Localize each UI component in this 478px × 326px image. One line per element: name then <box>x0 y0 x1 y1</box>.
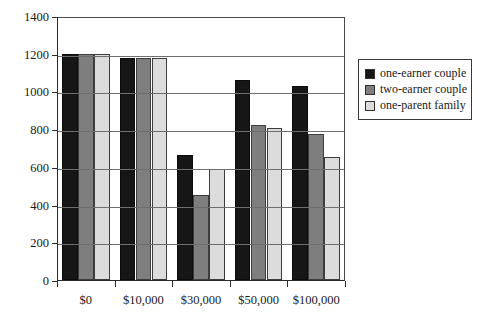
bar <box>177 155 193 280</box>
x-tick-label: $0 <box>57 294 115 307</box>
x-tick-mark <box>115 281 116 287</box>
legend-item: one-earner couple <box>365 66 466 81</box>
x-tick-mark <box>172 281 173 287</box>
y-tick-mark <box>52 130 57 131</box>
bars-layer <box>58 18 344 280</box>
x-tick-mark <box>287 281 288 287</box>
y-tick-label: 200 <box>5 237 49 250</box>
legend-item: two-earner couple <box>365 82 466 97</box>
bar <box>62 54 78 280</box>
bar <box>292 86 308 280</box>
gridline <box>58 93 344 94</box>
legend-swatch-icon <box>365 101 375 111</box>
legend-label: one-earner couple <box>380 67 466 80</box>
y-tick-label: 1200 <box>5 49 49 62</box>
bar <box>251 125 267 280</box>
plot-area <box>57 17 345 281</box>
legend-swatch-icon <box>365 69 375 79</box>
x-tick-label: $10,000 <box>115 294 173 307</box>
bar <box>78 54 94 280</box>
y-tick-label: 1400 <box>5 11 49 24</box>
y-tick-mark <box>52 168 57 169</box>
bar-chart: 0200400600800100012001400 $0$10,000$30,0… <box>0 0 478 326</box>
legend-label: one-parent family <box>380 99 466 112</box>
gridline <box>58 169 344 170</box>
y-tick-label: 600 <box>5 162 49 175</box>
legend: one-earner couple two-earner couple one-… <box>358 59 472 120</box>
bar <box>324 157 340 280</box>
y-tick-mark <box>52 55 57 56</box>
gridline <box>58 131 344 132</box>
x-tick-label: $50,000 <box>230 294 288 307</box>
x-tick-label: $30,000 <box>172 294 230 307</box>
bar <box>193 195 209 280</box>
y-tick-mark <box>52 243 57 244</box>
y-tick-mark <box>52 92 57 93</box>
y-tick-label: 400 <box>5 200 49 213</box>
x-tick-mark <box>57 281 58 287</box>
bar <box>94 54 110 280</box>
legend-swatch-icon <box>365 85 375 95</box>
gridline <box>58 244 344 245</box>
y-tick-mark <box>52 17 57 18</box>
x-tick-mark <box>345 281 346 287</box>
bar <box>209 169 225 280</box>
x-tick-label: $100,000 <box>287 294 345 307</box>
bar <box>235 80 251 280</box>
y-tick-mark <box>52 206 57 207</box>
y-tick-label: 1000 <box>5 86 49 99</box>
gridline <box>58 56 344 57</box>
y-tick-label: 0 <box>5 275 49 288</box>
legend-label: two-earner couple <box>380 83 467 96</box>
y-tick-label: 800 <box>5 124 49 137</box>
bar <box>267 128 283 280</box>
x-tick-mark <box>230 281 231 287</box>
gridline <box>58 207 344 208</box>
legend-item: one-parent family <box>365 98 466 113</box>
